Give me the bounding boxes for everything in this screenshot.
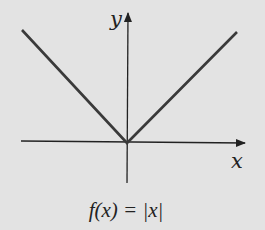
x-axis (21, 141, 245, 143)
x-axis-label: x (231, 149, 243, 173)
y-axis (127, 13, 128, 183)
function-caption: f(x) = |x| (0, 198, 252, 223)
y-axis-label: y (109, 7, 123, 31)
abs-value-graph: y x (0, 0, 265, 230)
abs-value-curve (22, 30, 237, 143)
